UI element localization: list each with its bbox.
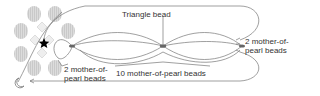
left-beads-label-line1: 2 mother-of-	[64, 65, 108, 74]
triangle-bead-label: Triangle bead	[122, 10, 171, 19]
right-beads-label-line2: pearl beads	[245, 46, 289, 55]
right-beads-label-line1: 2 mother-of-	[245, 37, 289, 46]
triangle-bead-left	[69, 44, 75, 47]
triangle-bead-center	[160, 44, 166, 48]
left-beads-label-line2: pearl beads	[64, 74, 108, 83]
right-beads-label: 2 mother-of- pearl beads	[245, 37, 289, 55]
flower-center-beads	[30, 22, 54, 58]
bottom-beads-label: 10 mother-of-pearl beads	[116, 69, 206, 78]
left-beads-label: 2 mother-of- pearl beads	[64, 65, 108, 83]
